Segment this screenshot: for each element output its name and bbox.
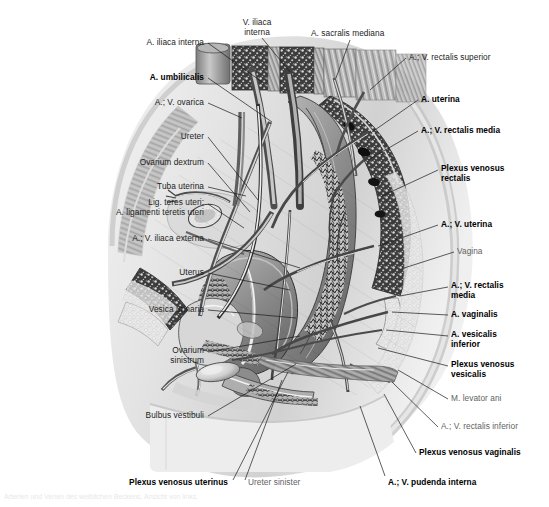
label-uterus: Uterus	[40, 268, 204, 278]
label-ovarium-sinistrum: Ovarium sinistrum	[40, 346, 204, 365]
label-bulbus-vestibuli: Bulbus vestibuli	[40, 411, 204, 421]
label-av-rectalis-media-low: A.; V. rectalis media	[451, 281, 547, 300]
label-a-uterina: A. uterina	[421, 95, 541, 105]
label-plexus-venosus-uterinus: Plexus venosus uterinus	[48, 478, 228, 488]
label-av-rectalis-inferior: A.; V. rectalis inferior	[441, 422, 547, 432]
label-vesica-urinaria: Vesica urinaria	[40, 305, 204, 315]
label-av-rectalis-media-top: A.; V. rectalis media	[421, 126, 545, 136]
label-av-pudenda-interna: A.; V. pudenda interna	[388, 478, 528, 488]
label-a-umbilicalis: A. umbilicalis	[60, 73, 204, 83]
label-plexus-venosus-vaginalis: Plexus venosus vaginalis	[419, 448, 547, 458]
anatomy-plate: V. iliaca internaA. sacralis medianaA. i…	[0, 0, 549, 507]
label-v-iliaca-interna: V. iliaca interna	[229, 18, 285, 37]
label-lig-teres-uteri: Lig. teres uteri; A. ligamenti teretis u…	[24, 198, 204, 217]
label-a-vesicalis-inferior: A. vesicalis inferior	[451, 330, 547, 349]
label-a-sacralis-mediana: A. sacralis mediana	[311, 29, 421, 39]
label-a-vaginalis: A. vaginalis	[451, 310, 547, 320]
label-av-iliaca-externa: A.; V. iliaca externa	[24, 234, 204, 244]
label-ureter-sinister: Ureter sinister	[248, 478, 348, 488]
label-tuba-uterina: Tuba uterina	[60, 182, 204, 192]
label-ureter: Ureter	[80, 132, 204, 142]
label-ovarium-dextrum: Ovarium dextrum	[60, 158, 204, 168]
label-plexus-venosus-rectalis: Plexus venosus rectalis	[441, 164, 547, 183]
label-av-rectalis-superior: A.; V. rectalis superior	[409, 53, 541, 63]
label-av-ovarica: A.; V. ovarica	[60, 98, 204, 108]
label-av-uterina: A.; V. uterina	[441, 220, 547, 230]
label-a-iliaca-interna: A. iliaca interna	[60, 38, 204, 48]
label-plexus-venosus-vesicalis: Plexus venosus vesicalis	[451, 360, 547, 379]
label-vagina: Vagina	[457, 247, 547, 257]
label-m-levator-ani: M. levator ani	[451, 394, 547, 404]
plate-caption: Arterien und Venen des weiblichen Becken…	[4, 492, 404, 503]
